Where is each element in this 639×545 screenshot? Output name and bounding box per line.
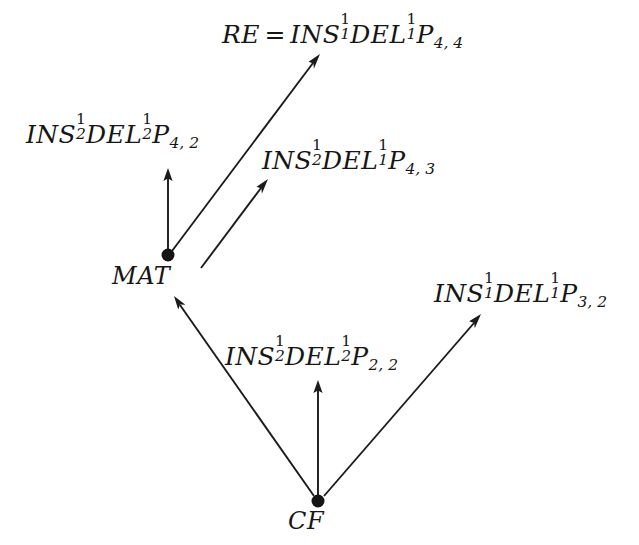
label-middle-right-p: P [388, 146, 405, 175]
node-label-mat: MAT [112, 262, 170, 290]
edge-mat-to-upper-left [163, 168, 172, 250]
label-center-bottom-ins: INS [225, 342, 275, 371]
label-middle-right-del-indices: 11 [378, 144, 388, 169]
label-top-ins: INS [290, 20, 340, 49]
label-upper-left-ins-indices: 12 [76, 118, 86, 143]
edge-cf-to-mat [174, 296, 314, 496]
label-middle-right: INS12DEL11P4, 3 [262, 144, 435, 178]
label-middle-right-p-sub: 4, 3 [405, 160, 435, 178]
label-top-del-indices: 11 [406, 18, 416, 43]
label-right-ins: INS [434, 279, 484, 308]
label-upper-left-del-indices: 12 [142, 118, 152, 143]
label-top: RE=INS11DEL11P4, 4 [222, 18, 463, 52]
node-dot-mat[interactable] [162, 249, 175, 262]
label-center-bottom-p: P [351, 342, 368, 371]
label-center-bottom: INS12DEL12P2, 2 [225, 340, 398, 374]
label-right-ins-indices: 11 [484, 277, 494, 302]
edge-cf-to-center-bottom [313, 380, 322, 496]
label-right-p-sub: 3, 2 [577, 293, 607, 311]
label-center-bottom-ins-indices: 12 [275, 340, 285, 365]
label-upper-left-del: DEL [86, 120, 142, 149]
label-upper-left-ins: INS [26, 120, 76, 149]
label-middle-right-ins: INS [262, 146, 312, 175]
label-right-del-indices: 11 [550, 277, 560, 302]
diagram-canvas: MAT CF RE=INS11DEL11P4, 4 INS12DEL12P4, … [0, 0, 639, 545]
node-dot-cf[interactable] [312, 495, 325, 508]
label-top-del: DEL [350, 20, 406, 49]
node-label-cf: CF [288, 507, 324, 535]
label-top-p: P [416, 20, 433, 49]
label-top-lhs: RE [222, 20, 260, 49]
label-middle-right-del: DEL [322, 146, 378, 175]
label-middle-right-ins-indices: 12 [312, 144, 322, 169]
edge-layer [0, 0, 639, 545]
label-upper-left: INS12DEL12P4, 2 [26, 118, 199, 152]
label-upper-left-p: P [152, 120, 169, 149]
label-center-bottom-del-indices: 12 [341, 340, 351, 365]
label-center-bottom-p-sub: 2, 2 [368, 356, 398, 374]
label-right-del: DEL [494, 279, 550, 308]
label-upper-left-p-sub: 4, 2 [169, 134, 199, 152]
label-top-equals: = [260, 20, 290, 49]
label-top-ins-indices: 11 [340, 18, 350, 43]
label-top-p-sub: 4, 4 [434, 34, 464, 52]
label-right-p: P [560, 279, 577, 308]
edge-mat-to-middle-right [201, 179, 268, 268]
label-center-bottom-del: DEL [285, 342, 341, 371]
label-right: INS11DEL11P3, 2 [434, 277, 607, 311]
